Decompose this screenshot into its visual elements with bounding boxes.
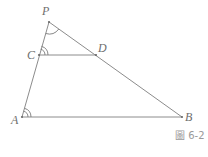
point-p (48, 21, 50, 23)
segment-pb (49, 22, 182, 117)
geometry-figure: P C D A B 圖 6-2 (0, 0, 208, 157)
label-a: A (10, 113, 19, 127)
figure-caption: 圖 6-2 (175, 130, 205, 141)
angle-mark-p (46, 29, 59, 34)
label-c: C (27, 48, 36, 62)
point-d (95, 54, 97, 56)
point-a (21, 116, 23, 118)
point-c (38, 54, 40, 56)
label-p: P (41, 4, 50, 18)
segment-pa (22, 22, 49, 117)
point-b (181, 116, 183, 118)
label-b: B (185, 110, 193, 124)
angle-mark-a-inner (24, 111, 28, 117)
label-d: D (97, 41, 107, 55)
